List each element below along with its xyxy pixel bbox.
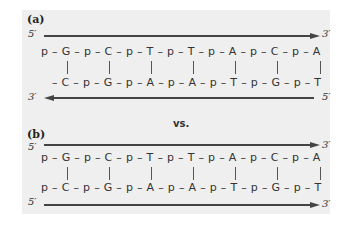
h-bond: [320, 61, 321, 74]
panel-a-bottom-sequence: – C – p – G – p – A – p – A – p – T – p …: [52, 76, 321, 89]
panel-b-label: (b): [27, 128, 45, 141]
panel-b-bottom-3prime: 3′: [322, 198, 331, 209]
panel-b-bottom-sequence: p – C – p – G – p – A – p – A – p – T – …: [41, 181, 321, 194]
panel-a-bottom-3prime: 3′: [28, 91, 37, 102]
h-bond: [277, 167, 278, 180]
h-bond: [277, 61, 278, 74]
h-bond: [151, 167, 152, 180]
h-bond: [320, 167, 321, 180]
panel-a-label: (a): [27, 13, 45, 26]
panel-b-top-sequence: p – G – p – C – p – T – p – T – p – A – …: [41, 151, 321, 164]
h-bond: [67, 61, 68, 74]
h-bond: [109, 167, 110, 180]
h-bond: [235, 167, 236, 180]
panel-a-top-strand-line: [44, 35, 314, 37]
h-bond: [151, 61, 152, 74]
arrow-right-icon: [310, 202, 320, 208]
h-bond: [235, 61, 236, 74]
arrow-right-icon: [310, 142, 320, 148]
h-bond: [193, 61, 194, 74]
panel-a-top-sequence: p – G – p – C – p – T – p – T – p – A – …: [41, 45, 321, 58]
h-bond: [109, 61, 110, 74]
panel-a-top-3prime: 3′: [322, 28, 331, 39]
h-bond: [67, 167, 68, 180]
vs-label: vs.: [173, 118, 189, 129]
panel-b-bottom-5prime: 5′: [28, 196, 37, 207]
panel-b-top-3prime: 3′: [322, 139, 331, 150]
panel-b-top-5prime: 5′: [28, 141, 37, 152]
panel-a-bottom-5prime: 5′: [322, 91, 331, 102]
panel-a-bottom-strand-line: [50, 97, 314, 99]
h-bond: [193, 167, 194, 180]
panel-b-bottom-strand-line: [44, 204, 314, 206]
panel-b-top-strand-line: [44, 144, 314, 146]
panel-a-top-5prime: 5′: [28, 28, 37, 39]
arrow-right-icon: [310, 33, 320, 39]
